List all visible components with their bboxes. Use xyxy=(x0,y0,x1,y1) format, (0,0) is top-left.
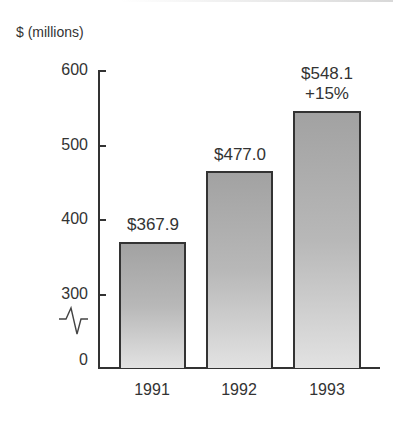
y-tick-label-600: 600 xyxy=(48,62,88,78)
y-tick-label-500: 500 xyxy=(48,137,88,153)
x-tick-label-1991: 1991 xyxy=(112,381,192,399)
bar-1992 xyxy=(206,171,273,368)
y-tick-label-400: 400 xyxy=(48,211,88,227)
y-tick-500 xyxy=(98,145,106,147)
x-tick-label-1993: 1993 xyxy=(287,381,367,399)
bar-value-label-1993: $548.1 xyxy=(277,63,377,84)
x-tick-label-1992: 1992 xyxy=(199,381,279,399)
bar-annotation-1993: +15% xyxy=(277,83,377,104)
bar-value-label-1992: $477.0 xyxy=(190,144,290,165)
y-tick-300 xyxy=(98,294,106,296)
axis-break-icon xyxy=(58,305,88,337)
y-tick-600 xyxy=(98,70,106,72)
y-axis-unit-label: $ (millions) xyxy=(16,24,84,40)
top-edge-shadow xyxy=(120,0,393,2)
y-tick-label-300: 300 xyxy=(48,286,88,302)
bar-value-label-1991: $367.9 xyxy=(103,214,203,235)
bar-1993 xyxy=(293,111,361,368)
bar-1991 xyxy=(119,242,186,368)
y-tick-label-0: 0 xyxy=(48,352,88,368)
